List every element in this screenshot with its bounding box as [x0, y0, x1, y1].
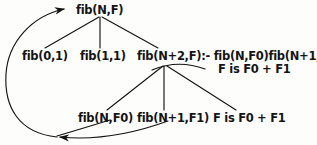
node-goal-fib-n1-f1: fib(N+1,F1) — [137, 112, 209, 125]
edge-clause-head-arc — [152, 64, 205, 70]
node-goal-fib-n-f0: fib(N,F0) — [78, 112, 133, 125]
diagram-canvas: fib(N,F) fib(0,1) fib(1,1) fib(N+2,F):- … — [0, 0, 317, 145]
node-root: fib(N,F) — [76, 4, 123, 17]
edge-recursion-loop-to-root — [6, 9, 64, 137]
edge-clause-to-goal-fib-n-f0 — [107, 66, 163, 110]
node-fact-base0: fib(0,1) — [22, 50, 68, 63]
node-goal-is-expr: F is F0 + F1 — [213, 112, 285, 125]
edge-root-to-fact-base0 — [45, 17, 99, 48]
edge-root-to-clause — [102, 17, 158, 48]
node-fact-base1: fib(1,1) — [80, 50, 126, 63]
node-clause-line2: F is F0 + F1 — [218, 63, 290, 76]
